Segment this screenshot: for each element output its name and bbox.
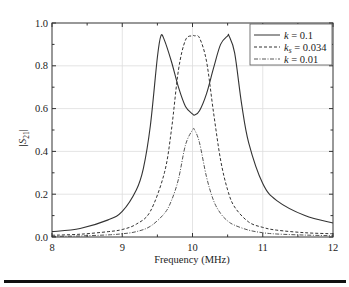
- s21-frequency-chart: 89101112 0.00.20.40.60.81.0 Frequency (M…: [0, 0, 349, 287]
- x-tick-labels: 89101112: [49, 242, 338, 253]
- bottom-rule-divider: [4, 280, 346, 283]
- svg-text:k = 0.01: k = 0.01: [284, 54, 318, 65]
- x-tick-label: 11: [258, 242, 268, 253]
- y-tick-label: 1.0: [35, 18, 48, 29]
- legend: k = 0.1 ks = 0.034 k = 0.01: [250, 24, 332, 65]
- x-tick-label: 9: [120, 242, 125, 253]
- y-tick-label: 0.6: [35, 103, 48, 114]
- x-tick-label: 10: [187, 242, 198, 253]
- svg-text:|S21|: |S21|: [17, 129, 31, 147]
- y-axis-label: |S21|: [17, 129, 31, 147]
- x-axis-label: Frequency (MHz): [154, 254, 230, 266]
- y-tick-labels: 0.00.20.40.60.81.0: [35, 18, 49, 243]
- y-tick-label: 0.4: [35, 146, 49, 157]
- y-tick-label: 0.8: [35, 60, 48, 71]
- y-tick-label: 0.0: [35, 232, 48, 243]
- x-tick-label: 8: [49, 242, 54, 253]
- x-tick-label: 12: [328, 242, 339, 253]
- y-tick-label: 0.2: [35, 189, 48, 200]
- svg-text:k = 0.1: k = 0.1: [284, 30, 313, 41]
